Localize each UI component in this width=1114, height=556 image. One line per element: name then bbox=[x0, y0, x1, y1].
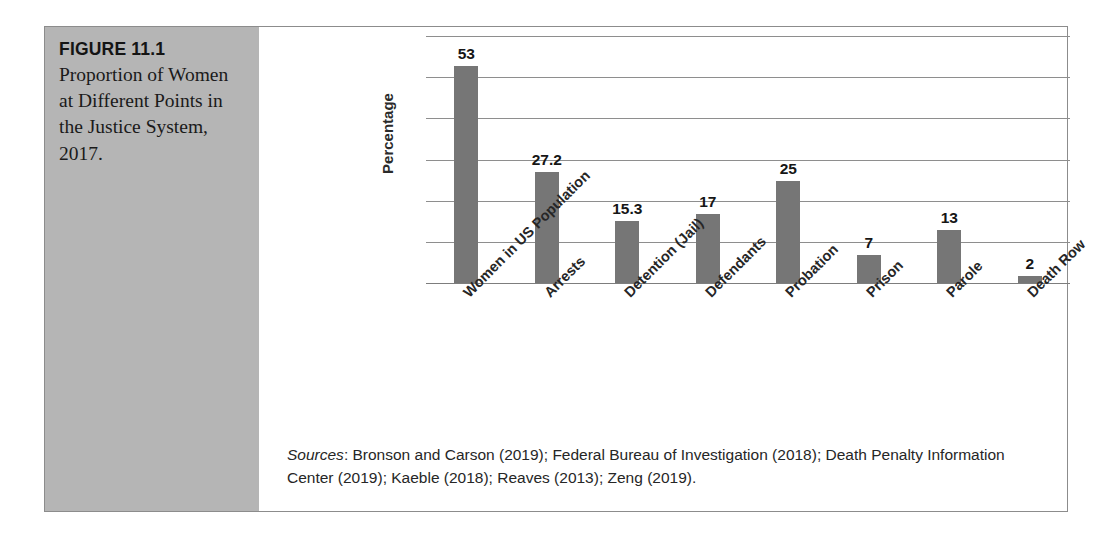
y-axis-title: Percentage bbox=[379, 59, 396, 209]
figure-number: FIGURE 11.1 bbox=[59, 39, 245, 60]
bar-value-label: 15.3 bbox=[612, 200, 642, 218]
figure-caption-panel: FIGURE 11.1 Proportion of Women at Diffe… bbox=[45, 27, 259, 511]
figure-container: FIGURE 11.1 Proportion of Women at Diffe… bbox=[44, 26, 1068, 512]
bar-value-label: 25 bbox=[780, 160, 797, 178]
bar bbox=[454, 66, 478, 284]
bar-group: 7 bbox=[829, 37, 910, 284]
chart-region: Percentage 5327.215.317257132 Women in U… bbox=[259, 27, 1067, 511]
bar-group: 53 bbox=[426, 37, 507, 284]
bar-value-label: 13 bbox=[941, 209, 958, 227]
sources-text: : Bronson and Carson (2019); Federal Bur… bbox=[287, 446, 1005, 486]
x-axis-line bbox=[426, 283, 1070, 285]
sources-note: Sources: Bronson and Carson (2019); Fede… bbox=[287, 443, 1045, 490]
sources-label: Sources bbox=[287, 446, 344, 463]
bar-group: 15.3 bbox=[587, 37, 668, 284]
bar-value-label: 27.2 bbox=[532, 151, 562, 169]
bar-value-label: 2 bbox=[1025, 255, 1034, 273]
bar-group: 13 bbox=[909, 37, 990, 284]
bar bbox=[776, 181, 800, 284]
bar-value-label: 17 bbox=[699, 193, 716, 211]
figure-caption-text: Proportion of Women at Different Points … bbox=[59, 62, 245, 167]
bar-value-label: 7 bbox=[864, 234, 873, 252]
bar-value-label: 53 bbox=[458, 45, 475, 63]
bar-group: 2 bbox=[990, 37, 1071, 284]
